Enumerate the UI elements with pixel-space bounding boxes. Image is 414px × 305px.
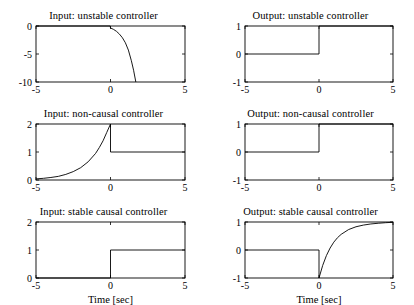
chart-axes: -50510-1 [207,4,414,102]
svg-text:-5: -5 [32,84,40,95]
svg-text:5: 5 [391,84,396,95]
x-axis-label: Time [sec] [245,294,393,305]
svg-text:-1: -1 [233,175,241,186]
chart-axes: -505012 [0,200,207,298]
data-curve [245,26,393,54]
svg-text:0: 0 [236,245,241,256]
data-curve [36,26,136,82]
svg-text:-1: -1 [233,77,241,88]
chart-axes: -50510-1 [207,200,414,298]
svg-text:0: 0 [317,84,322,95]
svg-text:1: 1 [27,245,32,256]
svg-text:-5: -5 [32,182,40,193]
svg-text:-10: -10 [19,77,32,88]
svg-text:0: 0 [27,175,32,186]
svg-text:0: 0 [108,182,113,193]
svg-text:0: 0 [317,182,322,193]
data-curve [245,124,393,152]
svg-text:1: 1 [236,21,241,32]
svg-text:0: 0 [236,49,241,60]
svg-text:5: 5 [183,182,188,193]
svg-text:5: 5 [183,84,188,95]
data-curve [245,222,393,278]
svg-text:-5: -5 [241,182,249,193]
chart-axes: -505012 [0,102,207,200]
svg-text:-5: -5 [241,280,249,291]
svg-text:0: 0 [108,84,113,95]
svg-text:0: 0 [27,273,32,284]
svg-text:5: 5 [391,280,396,291]
svg-text:1: 1 [236,217,241,228]
chart-axes: -5050-5-10 [0,4,207,102]
chart-panel-5: Input: stable causal controller-505012Ti… [0,200,207,298]
data-curve [36,250,185,278]
svg-text:1: 1 [27,147,32,158]
svg-text:0: 0 [108,280,113,291]
svg-text:0: 0 [317,280,322,291]
chart-panel-4: Output: non-causal controller-50510-1 [207,102,414,200]
svg-text:0: 0 [27,21,32,32]
svg-text:-5: -5 [24,49,32,60]
chart-panel-1: Input: unstable controller-5050-5-10 [0,4,207,102]
svg-text:-1: -1 [233,273,241,284]
chart-panel-3: Input: non-causal controller-505012 [0,102,207,200]
svg-text:1: 1 [236,119,241,130]
svg-text:-5: -5 [241,84,249,95]
svg-text:2: 2 [27,217,32,228]
chart-panel-2: Output: unstable controller-50510-1 [207,4,414,102]
chart-panel-6: Output: stable causal controller-50510-1… [207,200,414,298]
svg-text:5: 5 [183,280,188,291]
svg-text:2: 2 [27,119,32,130]
data-curve [36,124,185,179]
chart-axes: -50510-1 [207,102,414,200]
svg-text:5: 5 [391,182,396,193]
x-axis-label: Time [sec] [36,294,185,305]
svg-text:-5: -5 [32,280,40,291]
svg-text:0: 0 [236,147,241,158]
